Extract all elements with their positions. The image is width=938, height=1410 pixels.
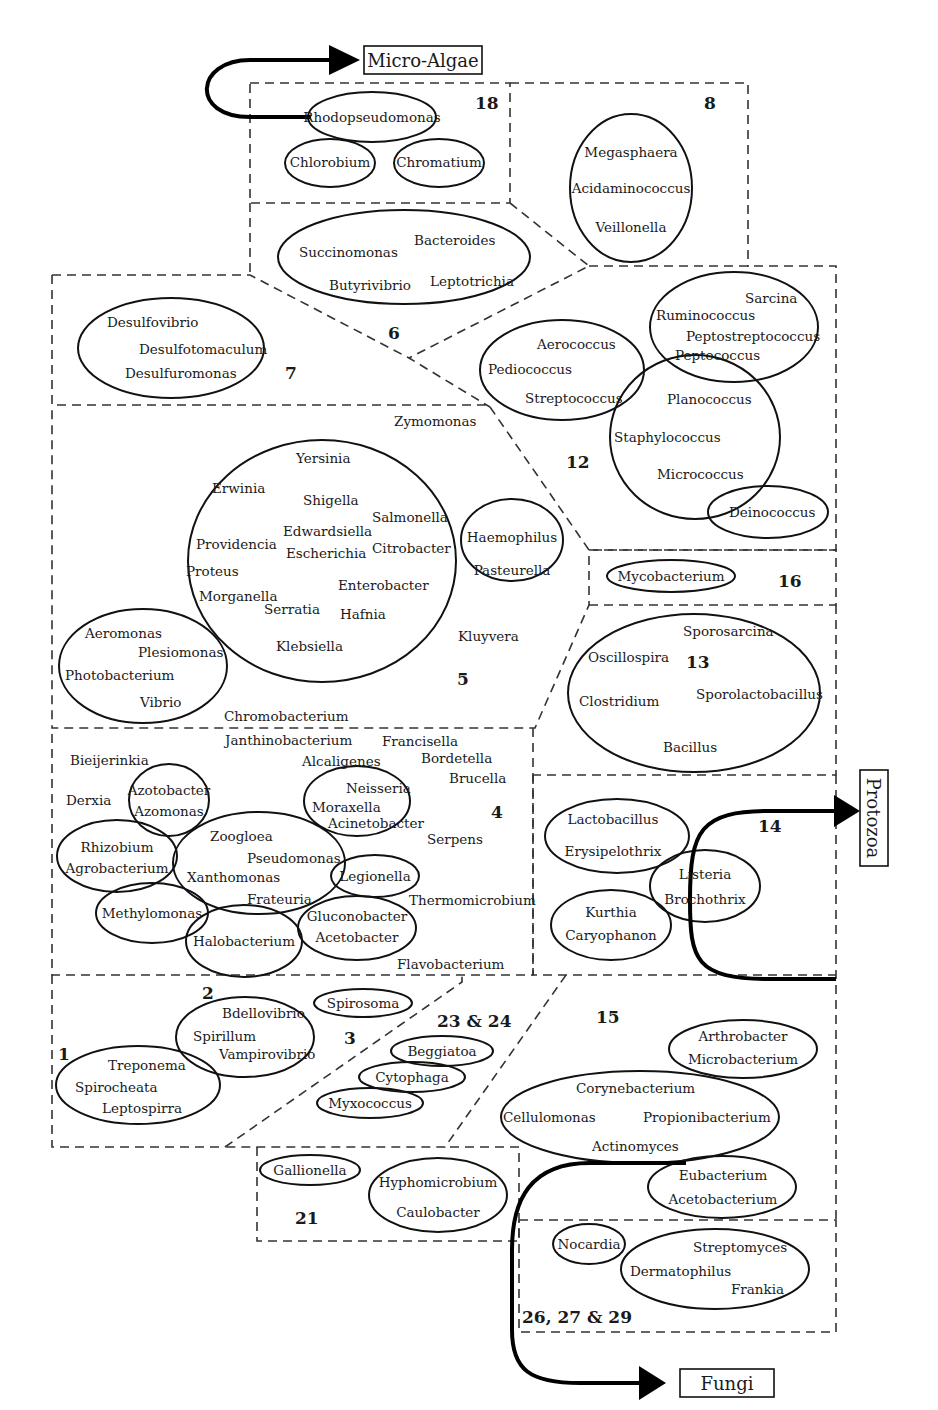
genus-label: Bordetella — [421, 750, 492, 766]
destination-label: Protozoa — [863, 778, 884, 859]
genus-label: Listeria — [679, 866, 731, 882]
genus-label: Staphylococcus — [614, 429, 721, 445]
genus-label: Neisseria — [346, 780, 411, 796]
genus-label: Bieijerinkia — [70, 752, 149, 768]
destination-micro-algae: Micro-Algae — [364, 46, 482, 74]
genus-label: Bdellovibrio — [222, 1005, 305, 1021]
genus-label: Legionella — [339, 868, 410, 884]
genus-label: Zoogloea — [210, 828, 273, 844]
genus-label: Clostridium — [579, 693, 660, 709]
genus-label: Kluyvera — [458, 628, 519, 644]
genus-label: Spirocheata — [75, 1079, 158, 1095]
genus-label: Gluconobacter — [307, 908, 408, 924]
genus-label: Brucella — [449, 770, 506, 786]
genus-label: Desulfotomaculum — [139, 341, 268, 357]
genus-label: Caryophanon — [565, 927, 657, 943]
genus-label: Lactobacillus — [568, 811, 659, 827]
group-number: 7 — [285, 363, 297, 383]
genus-label: Pasteurella — [474, 562, 551, 578]
genus-label: Salmonella — [372, 509, 448, 525]
genus-label: Halobacterium — [193, 933, 295, 949]
genus-label: Micrococcus — [657, 466, 744, 482]
genus-label: Streptomyces — [693, 1239, 787, 1255]
genus-label: Ruminococcus — [656, 307, 755, 323]
genus-label: Shigella — [303, 492, 359, 508]
genus-label: Chromatium — [396, 154, 482, 170]
genus-label: Desulfuromonas — [125, 365, 237, 381]
group-number: 26, 27 & 29 — [522, 1307, 632, 1327]
region-7 — [52, 275, 490, 407]
genus-label: Rhizobium — [81, 839, 154, 855]
genus-label: Pseudomonas — [247, 850, 341, 866]
genus-label: Vampirovibrio — [218, 1046, 315, 1062]
genus-label: Hafnia — [340, 606, 386, 622]
genus-label: Chlorobium — [290, 154, 371, 170]
genus-label: Acidaminococcus — [571, 180, 691, 196]
genus-label: Plesiomonas — [138, 644, 223, 660]
group-number: 1 — [58, 1044, 70, 1064]
genus-label: Kurthia — [585, 904, 636, 920]
genus-label: Arthrobacter — [697, 1028, 788, 1044]
genus-label: Veillonella — [595, 219, 667, 235]
genus-label: Frateuria — [247, 891, 312, 907]
genus-label: Flavobacterium — [397, 956, 505, 972]
genus-label: Xanthomonas — [187, 869, 280, 885]
genus-label: Cytophaga — [375, 1069, 449, 1085]
genus-label: Caulobacter — [396, 1204, 480, 1220]
group-number: 13 — [686, 652, 710, 672]
arrowhead-micro-algae — [329, 45, 360, 75]
genus-label: Derxia — [66, 792, 111, 808]
genus-label: Thermomicrobium — [409, 892, 536, 908]
genus-label: Providencia — [196, 536, 277, 552]
genus-label: Serratia — [264, 601, 320, 617]
genus-label: Streptococcus — [525, 390, 623, 406]
genus-label: Leptospirra — [102, 1100, 182, 1116]
genus-label: Microbacterium — [688, 1051, 798, 1067]
genus-label: Sporolactobacillus — [696, 686, 823, 702]
destination-label: Micro-Algae — [367, 50, 478, 71]
genus-label: Deinococcus — [729, 504, 815, 520]
genus-label: Agrobacterium — [65, 860, 169, 876]
group-number: 21 — [295, 1208, 319, 1228]
region-14 — [533, 775, 836, 1220]
genus-label: Succinomonas — [299, 244, 398, 260]
group-number: 3 — [344, 1028, 356, 1048]
group-number: 4 — [491, 802, 503, 822]
genus-label: Desulfovibrio — [107, 314, 198, 330]
genus-label: Haemophilus — [467, 529, 557, 545]
genus-label: Cellulomonas — [503, 1109, 596, 1125]
genus-label: Treponema — [108, 1057, 186, 1073]
genus-label: Aeromonas — [84, 625, 162, 641]
genus-label: Rhodopseudomonas — [303, 109, 440, 125]
bacterial-taxonomy-diagram: Micro-Algae Protozoa Fungi 18 8 6 7 12 1… — [0, 0, 938, 1410]
genus-label: Alcaligenes — [301, 753, 381, 769]
genus-label: Pediococcus — [488, 361, 572, 377]
genus-label: Proteus — [186, 563, 239, 579]
genus-label: Butyrivibrio — [329, 277, 411, 293]
genus-label: Francisella — [382, 733, 458, 749]
group-number: 5 — [457, 669, 469, 689]
genus-label: Bacillus — [663, 739, 717, 755]
group-number: 16 — [778, 571, 802, 591]
group-number: 23 & 24 — [437, 1011, 512, 1031]
genus-label: Bacteroides — [414, 232, 495, 248]
genus-label: Brochothrix — [664, 891, 746, 907]
genus-label: Klebsiella — [276, 638, 343, 654]
genus-label: Edwardsiella — [283, 523, 372, 539]
genus-label: Corynebacterium — [576, 1080, 695, 1096]
genus-label: Beggiatoa — [407, 1043, 476, 1059]
genus-label: Vibrio — [139, 694, 181, 710]
destination-protozoa: Protozoa — [860, 770, 888, 866]
genus-label: Azotobacter — [127, 782, 211, 798]
genus-label: Erwinia — [212, 480, 265, 496]
genus-label: Moraxella — [312, 799, 381, 815]
destination-label: Fungi — [701, 1373, 754, 1394]
genus-label: Spirillum — [193, 1028, 256, 1044]
genus-label: Actinomyces — [591, 1138, 679, 1154]
genus-label: Sporosarcina — [683, 623, 774, 639]
genus-label: Oscillospira — [588, 649, 669, 665]
genus-label: Acetobacter — [315, 929, 400, 945]
genus-label: Hyphomicrobium — [379, 1174, 498, 1190]
genus-label: Gallionella — [273, 1162, 346, 1178]
destination-fungi: Fungi — [680, 1369, 774, 1397]
